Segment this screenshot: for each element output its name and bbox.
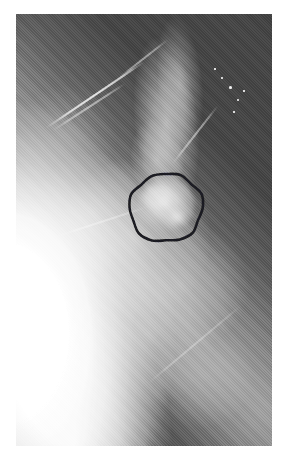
lesion-mass-speculation <box>144 186 170 208</box>
annotation-overlay <box>16 14 272 446</box>
radiograph-plate <box>16 14 272 446</box>
figure-page <box>0 0 287 463</box>
